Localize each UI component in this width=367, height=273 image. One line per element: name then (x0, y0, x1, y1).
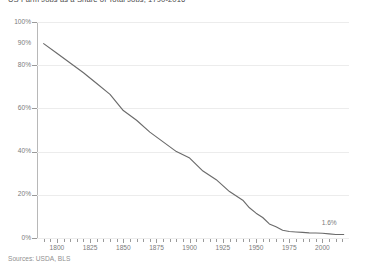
x-axis-tick-1885 (170, 239, 171, 242)
x-axis-labels: 180018251850187519001925195019752000 (37, 245, 349, 255)
x-axis-tick-1910 (203, 239, 204, 242)
x-axis-tick-1895 (183, 239, 184, 242)
x-axis-tick-1980 (296, 239, 297, 242)
x-axis-tick-2000 (322, 239, 323, 243)
x-axis-label-1925: 1925 (216, 245, 231, 252)
x-axis-tick-1800 (57, 239, 58, 243)
x-axis-tick-2015 (342, 239, 343, 242)
y-axis-tick-40 (32, 152, 37, 153)
y-axis-label-80: 80% (1, 62, 31, 69)
x-axis-label-1800: 1800 (50, 245, 65, 252)
series-path-farm-jobs (44, 44, 344, 235)
x-axis-tick-1790 (44, 239, 45, 242)
x-axis-tick-1880 (163, 239, 164, 242)
x-axis-tick-1850 (123, 239, 124, 243)
sources-note: Sources: USDA, BLS (8, 256, 70, 263)
x-axis-tick-1900 (190, 239, 191, 243)
x-axis-tick-1990 (309, 239, 310, 242)
x-axis-tick-1805 (64, 239, 65, 242)
x-axis-tick-1845 (117, 239, 118, 242)
x-axis-tick-1975 (289, 239, 290, 243)
x-axis-tick-1955 (263, 239, 264, 242)
x-axis-tick-1965 (276, 239, 277, 242)
x-axis-label-1825: 1825 (83, 245, 98, 252)
y-axis-label-90: 90% (1, 40, 31, 47)
x-axis-label-2000: 2000 (315, 245, 330, 252)
x-axis-tick-1950 (256, 239, 257, 243)
x-axis-label-1975: 1975 (282, 245, 297, 252)
y-axis-label-100: 100% (1, 19, 31, 26)
x-axis-tick-1935 (236, 239, 237, 242)
x-axis-tick-1825 (90, 239, 91, 243)
x-axis-tick-1995 (316, 239, 317, 242)
x-axis-tick-1815 (77, 239, 78, 242)
x-axis-tick-1920 (216, 239, 217, 242)
y-axis-label-0: 0% (1, 235, 31, 242)
x-axis-label-1850: 1850 (116, 245, 131, 252)
chart-title-clipped: US Farm Jobs as a Share of Total Jobs, 1… (8, 0, 348, 5)
x-axis-tick-1875 (156, 239, 157, 243)
chart-container: US Farm Jobs as a Share of Total Jobs, 1… (0, 0, 367, 273)
x-axis-tick-1820 (83, 239, 84, 242)
x-axis-tick-1865 (143, 239, 144, 242)
y-axis-label-20: 20% (1, 191, 31, 198)
x-axis-tick-1960 (269, 239, 270, 242)
x-axis-tick-1915 (210, 239, 211, 242)
y-axis-label-60: 60% (1, 105, 31, 112)
y-axis-tick-20 (32, 195, 37, 196)
x-axis-tick-1860 (137, 239, 138, 242)
y-axis-tick-100 (32, 22, 37, 23)
y-axis-labels: 100%90%80%60%40%20%0% (0, 22, 31, 238)
x-axis-tick-1945 (249, 239, 250, 242)
x-axis-tick-1890 (176, 239, 177, 242)
x-axis-tick-2005 (329, 239, 330, 242)
x-axis-tick-1840 (110, 239, 111, 242)
x-axis-tick-1855 (130, 239, 131, 242)
x-axis-tick-1905 (196, 239, 197, 242)
x-axis-tick-1970 (283, 239, 284, 242)
x-axis-tick-1795 (50, 239, 51, 242)
endpoint-annotation: 1.6% (322, 220, 337, 227)
x-axis-tick-1830 (97, 239, 98, 242)
x-axis-tick-1940 (243, 239, 244, 242)
x-axis-label-1950: 1950 (249, 245, 264, 252)
chart-title: US Farm Jobs as a Share of Total Jobs, 1… (8, 0, 348, 5)
x-axis-label-1900: 1900 (182, 245, 197, 252)
y-axis-label-40: 40% (1, 148, 31, 155)
y-axis-tick-0 (32, 238, 37, 239)
x-axis-tick-1925 (223, 239, 224, 243)
x-axis-tick-1810 (70, 239, 71, 242)
x-axis-tick-1985 (303, 239, 304, 242)
plot-area (37, 22, 349, 238)
x-axis-label-1875: 1875 (149, 245, 164, 252)
y-axis-tick-60 (32, 108, 37, 109)
line-series (37, 22, 349, 238)
y-axis-tick-80 (32, 65, 37, 66)
x-axis-tick-1835 (103, 239, 104, 242)
x-axis-tick-1870 (150, 239, 151, 242)
x-axis-tick-2010 (336, 239, 337, 242)
x-axis-tick-1930 (230, 239, 231, 242)
